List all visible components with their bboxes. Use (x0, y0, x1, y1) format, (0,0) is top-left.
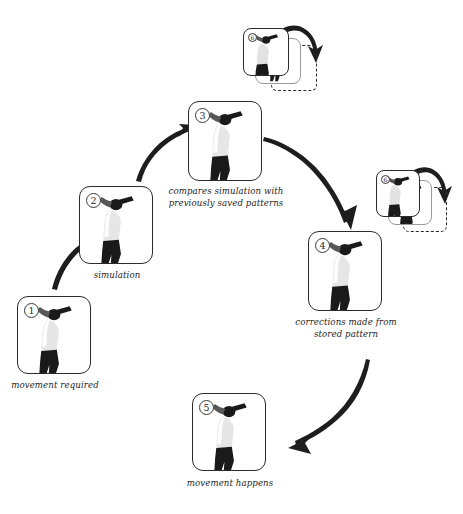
step-caption-1: movement required (2, 380, 108, 392)
step-caption-4: corrections made from stored pattern (290, 317, 402, 340)
memory-card-front-right[interactable]: 6 (376, 170, 420, 217)
memory-card-front-top[interactable]: 6 (243, 28, 289, 76)
step-badge-1: 1 (24, 303, 39, 318)
step-caption-5: movement happens (174, 478, 286, 490)
step-card-1[interactable]: 1 (17, 296, 91, 374)
step-badge-3: 3 (195, 108, 210, 123)
memory-badge-top: 6 (248, 33, 257, 42)
step-card-3[interactable]: 3 (188, 101, 262, 181)
step-badge-4: 4 (315, 238, 330, 253)
flow-diagram: 6 (0, 0, 463, 514)
step-badge-5: 5 (199, 400, 214, 415)
memory-badge-right: 6 (381, 175, 390, 184)
step-card-5[interactable]: 5 (192, 393, 266, 471)
step-caption-3: compares simulation with previously save… (167, 186, 285, 209)
arrow-4-to-5 (288, 359, 370, 454)
step-caption-2: simulation (64, 270, 170, 282)
arrow-3-to-4 (263, 137, 357, 230)
step-card-2[interactable]: 2 (79, 186, 153, 264)
arrow-2-to-3 (136, 124, 196, 182)
step-badge-2: 2 (86, 193, 101, 208)
step-card-4[interactable]: 4 (308, 231, 382, 311)
